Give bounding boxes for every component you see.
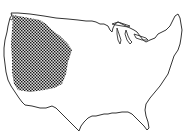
us-outline-map xyxy=(0,0,187,136)
highlighted-western-region xyxy=(11,15,72,92)
map-container xyxy=(0,0,187,136)
great-lakes-outline xyxy=(112,22,148,44)
